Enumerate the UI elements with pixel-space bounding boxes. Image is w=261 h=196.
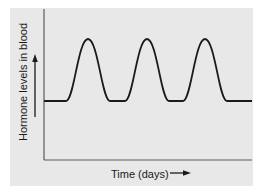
chart-plot — [0, 0, 261, 196]
up-arrow-icon — [32, 54, 38, 117]
y-axis-label: Hormone levels in blood — [17, 23, 29, 141]
x-axis-label: Time (days) — [111, 168, 169, 180]
right-arrow-icon — [170, 170, 191, 176]
hormone-level-curve — [44, 39, 252, 101]
